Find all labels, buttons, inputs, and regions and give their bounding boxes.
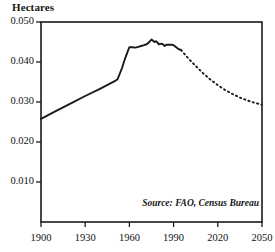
- plot-frame: [41, 22, 262, 222]
- x-tick-label: 2020: [198, 232, 238, 243]
- plot-area: [0, 0, 275, 252]
- chart-figure: Hectares 0.0100.0200.0300.0400.050 19001…: [0, 0, 275, 252]
- x-tick-label: 1990: [154, 232, 194, 243]
- y-tick-label: 0.030: [0, 95, 34, 106]
- source-annotation: Source: FAO, Census Bureau: [142, 198, 259, 208]
- y-tick-label: 0.010: [0, 175, 34, 186]
- x-tick-label: 1930: [65, 232, 105, 243]
- y-tick-label: 0.020: [0, 135, 34, 146]
- x-tick-label: 1960: [109, 232, 149, 243]
- x-tick-label: 2050: [242, 232, 275, 243]
- x-tick-label: 1900: [21, 232, 61, 243]
- y-tick-label: 0.040: [0, 55, 34, 66]
- y-tick-label: 0.050: [0, 15, 34, 26]
